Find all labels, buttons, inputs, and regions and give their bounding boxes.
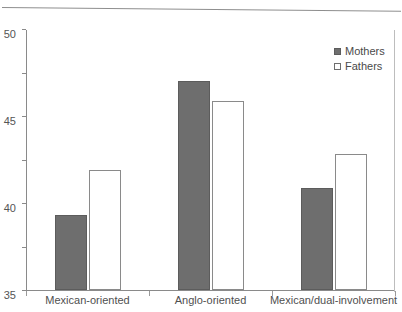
legend-item-mothers: Mothers xyxy=(334,44,385,59)
x-axis-label-3: Mexican/dual-involvement xyxy=(270,294,397,306)
y-axis-tick: 45 xyxy=(22,73,26,74)
x-axis-line xyxy=(26,290,395,291)
y-axis-line xyxy=(26,30,27,292)
y-axis-tick: 50 xyxy=(22,29,26,30)
bar-mothers-1 xyxy=(55,215,87,290)
filled-square-icon xyxy=(334,48,341,55)
bar-fathers-2 xyxy=(212,101,244,290)
bar-fathers-3 xyxy=(335,154,367,290)
chart-legend: Mothers Fathers xyxy=(334,44,385,74)
bar-mothers-2 xyxy=(178,81,210,290)
open-square-icon xyxy=(334,63,341,70)
plot-right-border xyxy=(394,30,395,292)
top-divider-rule xyxy=(2,7,401,12)
y-axis-tick: 40 xyxy=(22,116,26,117)
legend-label-fathers: Fathers xyxy=(345,59,382,74)
x-axis-tick xyxy=(26,291,27,296)
y-axis-tick: 25 xyxy=(22,247,26,248)
x-axis-tick xyxy=(149,291,150,296)
y-axis-tick: 35 xyxy=(22,160,26,161)
bar-chart-figure: 20253035404550 Mexican-orientedAnglo-ori… xyxy=(0,0,402,312)
x-axis-label-2: Anglo-oriented xyxy=(175,294,247,306)
legend-label-mothers: Mothers xyxy=(345,44,385,59)
x-axis-label-1: Mexican-oriented xyxy=(45,294,129,306)
bar-fathers-1 xyxy=(89,170,121,290)
y-axis-tick: 30 xyxy=(22,203,26,204)
legend-item-fathers: Fathers xyxy=(334,59,385,74)
bar-mothers-3 xyxy=(301,188,333,290)
